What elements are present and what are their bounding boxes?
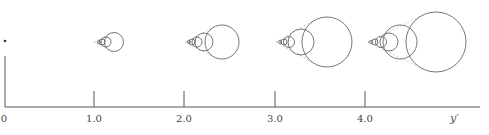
tangent-circle	[288, 29, 314, 55]
tangent-circle	[383, 25, 417, 59]
nested-circles-diagram	[0, 0, 489, 135]
cone-line	[368, 42, 423, 69]
circle-group	[368, 12, 466, 72]
axis-ticks	[94, 91, 365, 107]
tick-label: 1.0	[86, 113, 102, 124]
tick-label: 2.0	[176, 113, 192, 124]
circle-group	[185, 25, 239, 59]
cone-line	[368, 15, 423, 42]
circle-group	[276, 17, 352, 67]
origin-label: 0	[1, 113, 7, 124]
axis-label-y-prime: y′	[450, 112, 459, 125]
tangent-circle	[195, 33, 213, 51]
tangent-circle	[302, 17, 352, 67]
tick-label: 3.0	[267, 113, 283, 124]
cone-line	[276, 42, 315, 64]
cone-line	[276, 20, 315, 42]
circle-group	[94, 33, 124, 52]
tick-label: 4.0	[357, 113, 373, 124]
circle-groups	[94, 12, 466, 72]
tangent-circle	[406, 12, 466, 72]
tangent-circle	[101, 37, 111, 47]
origin-point	[4, 40, 7, 43]
tangent-circle	[192, 37, 202, 47]
tangent-circle	[205, 25, 239, 59]
tangent-circle	[105, 33, 124, 52]
